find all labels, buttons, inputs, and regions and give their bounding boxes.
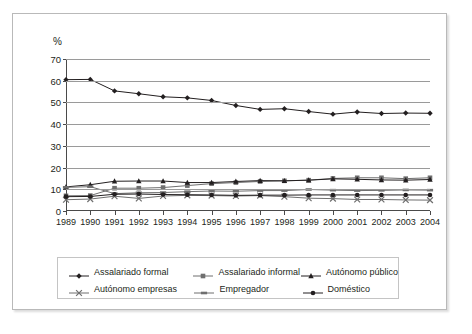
x-tick-mark (284, 211, 285, 215)
chart-legend: Assalariado formal Assalariado informal … (57, 257, 399, 299)
circle-data-marker (185, 192, 190, 197)
gridline (66, 146, 430, 147)
x-tick-label: 1998 (274, 217, 294, 227)
diamond-data-marker (330, 111, 335, 116)
circle-data-marker (310, 290, 315, 295)
circle-data-marker (137, 192, 142, 197)
x-tick-label: 1989 (56, 217, 76, 227)
dash-data-marker (201, 291, 207, 294)
circle-data-marker (161, 192, 166, 197)
legend-label: Assalariado informal (218, 267, 300, 277)
plot-area: % 01020304050607019891990199119921993199… (13, 14, 448, 244)
y-axis-unit-label: % (53, 36, 62, 47)
gridline (66, 124, 430, 125)
diamond-data-marker (76, 273, 81, 278)
gridline (66, 59, 430, 60)
square-marker-icon (192, 267, 214, 277)
gridline (66, 189, 430, 190)
series-line (66, 195, 430, 200)
diamond-data-marker (282, 106, 287, 111)
x-tick-mark (212, 211, 213, 215)
y-tick-mark (63, 189, 66, 190)
triangle-marker-icon (300, 267, 322, 277)
x-tick-label: 1995 (202, 217, 222, 227)
circle-data-marker (88, 194, 93, 199)
diamond-data-marker (379, 111, 384, 116)
x-tick-mark (430, 211, 431, 215)
y-tick-label: 20 (50, 162, 61, 173)
x-tick-label: 1996 (226, 217, 246, 227)
x-tick-mark (309, 211, 310, 215)
diamond-data-marker (403, 110, 408, 115)
x-tick-mark (357, 211, 358, 215)
x-tick-mark (187, 211, 188, 215)
x-tick-label: 2001 (347, 217, 367, 227)
dash-data-marker (233, 190, 239, 193)
y-tick-label: 50 (50, 97, 61, 108)
x-tick-label: 2004 (420, 217, 440, 227)
diamond-data-marker (233, 103, 238, 108)
legend-label: Autónomo empresas (94, 284, 177, 294)
circle-data-marker (112, 192, 117, 197)
y-tick-mark (63, 59, 66, 60)
circle-data-marker (258, 193, 263, 198)
circle-data-marker (379, 193, 384, 198)
x-tick-label: 1997 (250, 217, 270, 227)
legend-item-assalariado-formal[interactable]: Assalariado formal (58, 267, 192, 277)
circle-data-marker (331, 193, 336, 198)
diamond-data-marker (257, 107, 262, 112)
circle-data-marker (306, 193, 311, 198)
diamond-marker-icon (68, 267, 90, 277)
x-tick-mark (260, 211, 261, 215)
series-assalariado-formal (63, 77, 432, 117)
x-tick-mark (139, 211, 140, 215)
circle-data-marker (209, 193, 214, 198)
legend-item-assalariado-informal[interactable]: Assalariado informal (192, 267, 300, 277)
x-tick-mark (333, 211, 334, 215)
x-tick-label: 1990 (80, 217, 100, 227)
plot-grid: 0102030405060701989199019911992199319941… (66, 59, 430, 211)
circle-data-marker (64, 194, 69, 199)
legend-item-autonomo-publico[interactable]: Autónomo público (300, 267, 398, 277)
x-tick-label: 2003 (396, 217, 416, 227)
dash-marker-icon (193, 284, 215, 294)
legend-row: Autónomo empresas Empregador Doméstico (58, 280, 398, 297)
legend-item-autonomo-empresas[interactable]: Autónomo empresas (58, 284, 193, 294)
series-line (66, 79, 430, 114)
x-tick-label: 1993 (153, 217, 173, 227)
x-tick-label: 1999 (299, 217, 319, 227)
x-tick-mark (66, 211, 67, 215)
y-tick-label: 40 (50, 119, 61, 130)
x-tick-label: 1992 (129, 217, 149, 227)
legend-label: Autónomo público (326, 267, 398, 277)
dash-data-marker (87, 185, 93, 188)
circle-data-marker (403, 193, 408, 198)
diamond-data-marker (185, 95, 190, 100)
cross-marker-icon (68, 284, 90, 294)
y-tick-label: 60 (50, 75, 61, 86)
circle-data-marker (428, 193, 433, 198)
legend-row: Assalariado formal Assalariado informal … (58, 263, 398, 280)
circle-data-marker (282, 193, 287, 198)
diamond-data-marker (427, 111, 432, 116)
legend-item-domestico[interactable]: Doméstico (302, 284, 398, 294)
y-tick-label: 70 (50, 54, 61, 65)
series-lines (66, 59, 430, 211)
x-tick-mark (381, 211, 382, 215)
diamond-data-marker (112, 88, 117, 93)
y-tick-mark (63, 102, 66, 103)
circle-marker-icon (302, 284, 324, 294)
x-tick-mark (115, 211, 116, 215)
legend-label: Doméstico (328, 284, 371, 294)
gridline (66, 102, 430, 103)
diamond-data-marker (306, 109, 311, 114)
gridline (66, 81, 430, 82)
x-tick-label: 1994 (177, 217, 197, 227)
y-tick-mark (63, 81, 66, 82)
y-tick-label: 30 (50, 140, 61, 151)
diamond-data-marker (136, 91, 141, 96)
diamond-data-marker (160, 94, 165, 99)
legend-item-empregador[interactable]: Empregador (193, 284, 301, 294)
y-tick-label: 10 (50, 184, 61, 195)
legend-label: Assalariado formal (94, 267, 169, 277)
